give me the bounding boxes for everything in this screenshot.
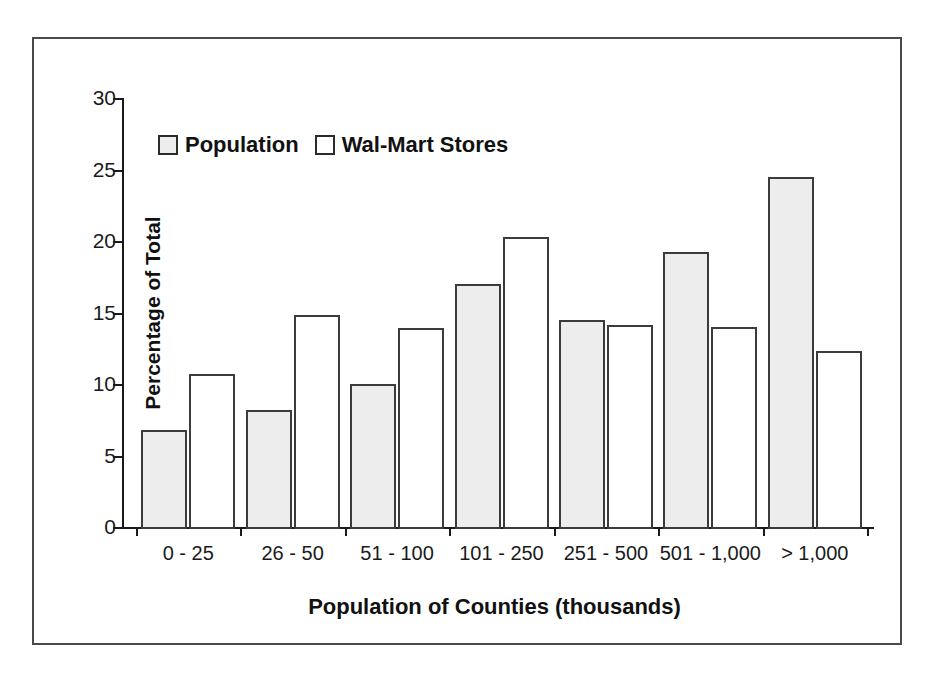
x-tick-mark bbox=[449, 527, 451, 536]
legend-swatch-walmart-stores-icon bbox=[315, 135, 335, 155]
chart-legend: Population Wal-Mart Stores bbox=[158, 132, 508, 158]
x-category-label-5: 501 - 1,000 bbox=[658, 542, 762, 565]
x-tick-mark bbox=[867, 527, 869, 536]
x-category-label-4: 251 - 500 bbox=[554, 542, 658, 565]
bar-population-4 bbox=[559, 320, 605, 529]
bar-population-3 bbox=[455, 284, 501, 529]
x-tick-mark bbox=[240, 527, 242, 536]
bar-walmart-stores-5 bbox=[711, 327, 757, 529]
x-axis-title: Population of Counties (thousands) bbox=[122, 594, 867, 620]
bar-walmart-stores-4 bbox=[607, 325, 653, 529]
x-category-label-2: 51 - 100 bbox=[345, 542, 449, 565]
legend-item-walmart-stores: Wal-Mart Stores bbox=[315, 132, 509, 158]
y-tick-label: 5 bbox=[104, 445, 116, 466]
y-tick-label: 30 bbox=[93, 87, 116, 108]
bar-population-5 bbox=[663, 252, 709, 529]
legend-swatch-population-icon bbox=[158, 135, 178, 155]
x-tick-mark bbox=[658, 527, 660, 536]
y-tick-label: 0 bbox=[104, 516, 116, 537]
y-tick-label: 20 bbox=[93, 230, 116, 251]
y-tick-label: 10 bbox=[93, 373, 116, 394]
bar-walmart-stores-1 bbox=[294, 315, 340, 529]
bar-population-1 bbox=[246, 410, 292, 529]
y-axis-line bbox=[122, 98, 124, 527]
x-category-label-3: 101 - 250 bbox=[449, 542, 553, 565]
x-category-label-6: > 1,000 bbox=[763, 542, 867, 565]
bar-walmart-stores-0 bbox=[189, 374, 235, 529]
figure-frame: 051015202530 0 - 2526 - 5051 - 100101 - … bbox=[32, 37, 902, 645]
bar-population-6 bbox=[768, 177, 814, 529]
legend-item-population: Population bbox=[158, 132, 299, 158]
x-tick-mark bbox=[554, 527, 556, 536]
legend-label-walmart-stores: Wal-Mart Stores bbox=[342, 132, 509, 158]
x-tick-mark bbox=[763, 527, 765, 536]
chart-plot-area: 051015202530 0 - 2526 - 5051 - 100101 - … bbox=[122, 98, 867, 527]
bar-population-2 bbox=[350, 384, 396, 529]
x-tick-mark bbox=[136, 527, 138, 536]
legend-label-population: Population bbox=[185, 132, 299, 158]
x-tick-mark bbox=[345, 527, 347, 536]
bar-walmart-stores-6 bbox=[816, 351, 862, 529]
bar-walmart-stores-3 bbox=[503, 237, 549, 529]
bar-walmart-stores-2 bbox=[398, 328, 444, 529]
bar-population-0 bbox=[141, 430, 187, 529]
y-tick-label: 25 bbox=[93, 159, 116, 180]
x-category-label-0: 0 - 25 bbox=[136, 542, 240, 565]
y-axis-title: Percentage of Total bbox=[141, 216, 165, 409]
y-tick-label: 15 bbox=[93, 302, 116, 323]
x-category-label-1: 26 - 50 bbox=[240, 542, 344, 565]
